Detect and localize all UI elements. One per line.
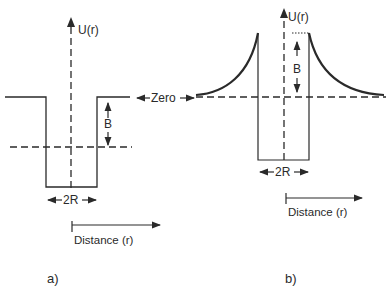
- potential-diagram: U(r) B 2R Distance (r) a) Zero U: [0, 0, 386, 297]
- zero-marker: Zero: [137, 91, 194, 105]
- barrier-label: B: [293, 62, 301, 76]
- y-axis-label: U(r): [78, 23, 99, 37]
- panel-b: U(r) B 2R Distance (r) b): [196, 8, 386, 286]
- zero-label: Zero: [151, 91, 176, 105]
- distance-label: Distance (r): [74, 234, 134, 246]
- coulomb-barrier-right: [309, 33, 384, 95]
- width-label: 2R: [275, 165, 291, 179]
- width-label: 2R: [63, 193, 79, 207]
- y-axis-arrow-icon: [67, 17, 75, 27]
- square-well-outline: [5, 97, 130, 187]
- panel-caption: a): [47, 271, 59, 286]
- panel-caption: b): [285, 271, 297, 286]
- distance-label: Distance (r): [288, 206, 348, 218]
- panel-a: U(r) B 2R Distance (r) a): [5, 17, 160, 286]
- barrier-label: B: [104, 117, 112, 131]
- y-axis-arrow-icon: [280, 8, 288, 18]
- coulomb-barrier-left: [196, 33, 258, 95]
- y-axis-label: U(r): [288, 10, 309, 24]
